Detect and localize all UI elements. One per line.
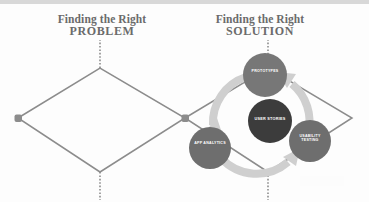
arrow-arc-analytics-to-usability — [221, 158, 288, 174]
arrow-arc-prototypes-to-analytics — [213, 77, 246, 125]
page-title-problem: Finding the Right PROBLEM — [38, 13, 166, 38]
node-circle-usability-testing[interactable] — [289, 120, 331, 162]
node-circle-user-stories[interactable] — [248, 99, 292, 143]
corner-watermark-artifact — [300, 176, 344, 186]
node-circle-prototypes[interactable] — [243, 53, 287, 97]
page-title-solution: Finding the Right SOLUTION — [196, 13, 324, 38]
title-solution-line2: SOLUTION — [196, 25, 324, 38]
node-circle-app-analytics[interactable] — [189, 127, 231, 169]
title-problem-line2: PROBLEM — [38, 25, 166, 38]
diagram-canvas: Finding the Right PROBLEM Finding the Ri… — [0, 0, 369, 202]
